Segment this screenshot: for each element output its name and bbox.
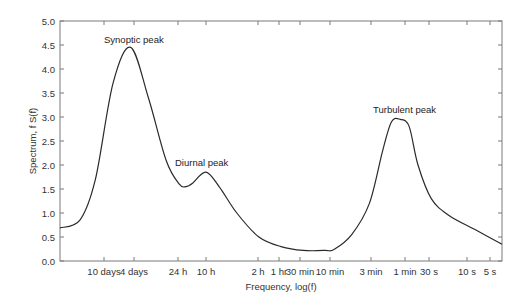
- y-tick-label: 0.5: [42, 232, 55, 243]
- x-tick-label: 24 h: [169, 266, 188, 277]
- x-tick-label: 1 min: [393, 266, 416, 277]
- y-tick-label: 1.5: [42, 184, 55, 195]
- x-tick-label: 10 h: [197, 266, 216, 277]
- x-tick-label: 3 min: [359, 266, 382, 277]
- y-tick-label: 5.0: [42, 16, 55, 27]
- x-tick-label: 10 min: [316, 266, 345, 277]
- y-tick-label: 3.0: [42, 112, 55, 123]
- x-tick-label: 4 days: [120, 266, 148, 277]
- y-tick-label: 1.0: [42, 208, 55, 219]
- y-tick-label: 0.0: [42, 256, 55, 267]
- x-tick-label: 10 s: [458, 266, 476, 277]
- x-axis-ticks: 10 days4 days24 h10 h2 h1 hr30 min10 min…: [87, 21, 496, 277]
- x-tick-label: 30 min: [286, 266, 315, 277]
- y-tick-label: 3.5: [42, 88, 55, 99]
- annotation-turbulent-peak: Turbulent peak: [373, 104, 436, 115]
- plot-frame: [60, 21, 502, 261]
- x-tick-label: 10 days: [87, 266, 121, 277]
- y-axis-title: Spectrum, f S(f): [27, 108, 38, 175]
- spectrum-curve: [60, 47, 502, 251]
- x-axis-title-text: Frequency, log(f): [245, 281, 316, 292]
- x-tick-label: 5 s: [484, 266, 497, 277]
- y-tick-label: 2.5: [42, 136, 55, 147]
- y-tick-label: 2.0: [42, 160, 55, 171]
- annotation-diurnal-peak: Diurnal peak: [175, 157, 229, 168]
- spectrum-chart: 0.00.51.01.52.02.53.03.54.04.55.0 10 day…: [0, 0, 522, 305]
- x-tick-label: 30 s: [420, 266, 438, 277]
- y-axis-title-text: Spectrum, f S(f): [27, 108, 38, 175]
- annotation-synoptic-peak: Synoptic peak: [104, 34, 164, 45]
- y-axis-ticks: 0.00.51.01.52.02.53.03.54.04.55.0: [42, 16, 502, 267]
- y-tick-label: 4.5: [42, 40, 55, 51]
- y-tick-label: 4.0: [42, 64, 55, 75]
- x-axis-title: Frequency, log(f): [245, 281, 316, 292]
- x-tick-label: 2 h: [251, 266, 264, 277]
- x-tick-label: 1 hr: [271, 266, 287, 277]
